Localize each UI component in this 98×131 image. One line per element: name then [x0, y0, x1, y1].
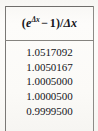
table-row: 1.0050167 — [26, 60, 72, 75]
table-row: 1.0005000 — [26, 74, 72, 89]
formula-denominator: Δx — [63, 16, 77, 30]
formula-minus: − — [40, 16, 50, 30]
column-header-formula: (eΔx−1)/Δx — [22, 16, 77, 31]
table-row: 1.0517092 — [26, 45, 72, 60]
table-body: 1.0517092 1.0050167 1.0005000 1.0000500 … — [6, 45, 93, 119]
table-header-divider — [5, 40, 94, 41]
table-row: 1.0000500 — [26, 89, 72, 104]
table-right-rule — [93, 6, 94, 131]
table-figure: (eΔx−1)/Δx 1.0517092 1.0050167 1.0005000… — [0, 0, 98, 131]
formula-exponent: Δx — [31, 15, 39, 24]
table-header-cell: (eΔx−1)/Δx — [6, 7, 93, 40]
table-row: 0.9999500 — [26, 104, 72, 119]
